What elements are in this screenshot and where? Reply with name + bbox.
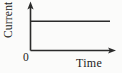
plot-area: [0, 0, 122, 73]
current-vs-time-figure: Current Time 0: [0, 0, 122, 73]
origin-tick-label: 0: [23, 52, 29, 64]
x-axis-label: Time: [76, 57, 102, 69]
y-axis-label: Current: [3, 0, 15, 42]
